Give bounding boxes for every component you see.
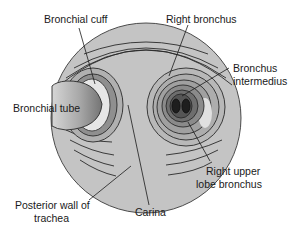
label-bronchial-tube: Bronchial tube bbox=[13, 102, 80, 114]
right-bronchus bbox=[147, 68, 225, 146]
label-bronchus-intermedius-line1: Bronchus bbox=[233, 62, 277, 74]
trachea-illustration bbox=[0, 0, 291, 230]
label-right-upper-lobe-line1: Right upper bbox=[206, 165, 260, 177]
bronchoscopy-diagram: Bronchial cuff Right bronchus Bronchus i… bbox=[0, 0, 291, 230]
label-bronchial-cuff: Bronchial cuff bbox=[44, 13, 107, 25]
label-posterior-wall-line1: Posterior wall of bbox=[15, 199, 90, 211]
label-bronchus-intermedius-line2: intermedius bbox=[233, 75, 287, 87]
label-right-bronchus: Right bronchus bbox=[166, 13, 237, 25]
label-posterior-wall-line2: trachea bbox=[34, 212, 69, 224]
label-carina: Carina bbox=[135, 206, 166, 218]
label-right-upper-lobe-line2: lobe bronchus bbox=[196, 178, 262, 190]
